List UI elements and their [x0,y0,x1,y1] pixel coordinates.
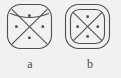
dot-top-a [28,14,30,16]
dot-bottom-b [86,35,88,37]
panel-label-b: b [60,57,121,71]
figure-root: a b [0,0,121,78]
diagram-a [0,1,60,56]
dot-top-b [86,15,88,17]
diagram-panel-b: b [60,0,120,78]
dot-right-b [97,25,99,27]
dot-left-a [15,25,17,27]
dot-bottom-a [28,37,30,39]
diagram-b [60,1,120,56]
panel-label-a: a [0,57,64,71]
dot-right-a [42,25,44,27]
dot-left-b [76,25,78,27]
diagram-panel-a: a [0,0,60,78]
